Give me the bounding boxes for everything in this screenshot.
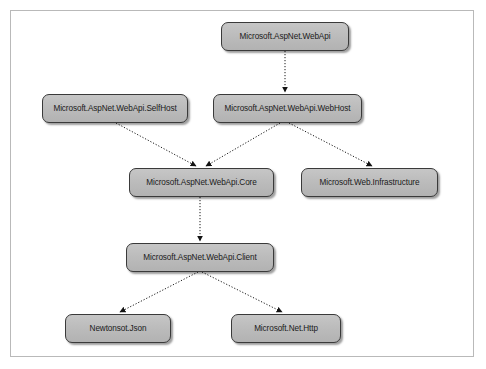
node-label-webapi: Microsoft.AspNet.WebApi <box>240 32 331 41</box>
node-label-http: Microsoft.Net.Http <box>254 324 318 333</box>
node-label-core: Microsoft.AspNet.WebApi.Core <box>146 178 256 187</box>
node-core[interactable]: Microsoft.AspNet.WebApi.Core <box>129 168 274 197</box>
node-label-json: Newtonsot.Json <box>90 324 147 333</box>
node-label-webhost: Microsoft.AspNet.WebApi.WebHost <box>225 104 351 113</box>
node-label-selfhost: Microsoft.AspNet.WebApi.SelfHost <box>53 104 176 113</box>
node-client[interactable]: Microsoft.AspNet.WebApi.Client <box>126 243 274 272</box>
node-http[interactable]: Microsoft.Net.Http <box>231 314 341 343</box>
node-webhost[interactable]: Microsoft.AspNet.WebApi.WebHost <box>213 94 362 123</box>
node-label-infrastructure: Microsoft.Web.Infrastructure <box>320 178 420 187</box>
node-webapi[interactable]: Microsoft.AspNet.WebApi <box>221 22 349 51</box>
diagram-canvas: Microsoft.AspNet.WebApiMicrosoft.AspNet.… <box>0 0 486 369</box>
node-json[interactable]: Newtonsot.Json <box>65 314 171 343</box>
node-infrastructure[interactable]: Microsoft.Web.Infrastructure <box>301 168 438 197</box>
node-selfhost[interactable]: Microsoft.AspNet.WebApi.SelfHost <box>42 94 188 123</box>
node-label-client: Microsoft.AspNet.WebApi.Client <box>143 253 256 262</box>
